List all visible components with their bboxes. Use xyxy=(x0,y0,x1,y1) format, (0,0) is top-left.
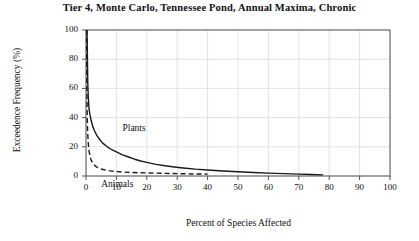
x-tick-label: 60 xyxy=(253,182,283,192)
y-tick-label: 80 xyxy=(52,53,78,63)
x-tick-label: 40 xyxy=(193,182,223,192)
x-tick-label: 20 xyxy=(132,182,162,192)
y-tick-label: 100 xyxy=(52,24,78,34)
x-tick-label: 30 xyxy=(162,182,192,192)
x-tick-label: 100 xyxy=(375,182,405,192)
y-tick-label: 60 xyxy=(52,82,78,92)
x-tick-label: 0 xyxy=(71,182,101,192)
x-tick-label: 80 xyxy=(314,182,344,192)
chart-container: Tier 4, Monte Carlo, Tennessee Pond, Ann… xyxy=(0,0,419,241)
y-tick-label: 20 xyxy=(52,141,78,151)
x-tick-label: 70 xyxy=(284,182,314,192)
x-tick-label: 90 xyxy=(345,182,375,192)
y-tick-label: 0 xyxy=(52,170,78,180)
y-tick-label: 40 xyxy=(52,112,78,122)
x-tick-label: 50 xyxy=(223,182,253,192)
series-label-plants: Plants xyxy=(122,123,145,133)
series-label-animals: Animals xyxy=(101,179,133,189)
